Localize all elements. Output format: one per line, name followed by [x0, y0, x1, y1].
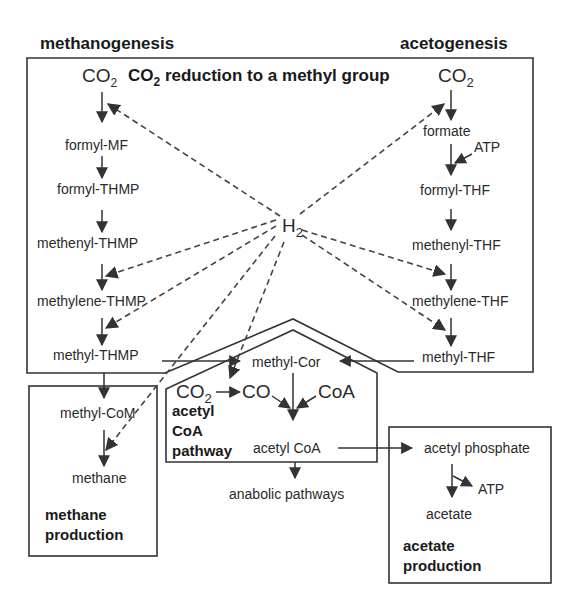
methane-production-label-1: methane — [45, 506, 107, 523]
co: CO — [242, 381, 271, 402]
methyl-com: methyl-CoM — [60, 405, 135, 421]
methyl-cor: methyl-Cor — [252, 354, 321, 370]
acetyl-phosphate: acetyl phosphate — [424, 440, 530, 456]
methylene-thf: methylene-THF — [412, 293, 508, 309]
methyl-thmp: methyl-THMP — [53, 347, 139, 363]
acetogenesis-heading: acetogenesis — [400, 34, 508, 53]
box-title: CO2 reduction to a methyl group — [128, 66, 390, 89]
h2-reductant: H2 — [282, 215, 303, 240]
coa: CoA — [318, 381, 355, 402]
formyl-mf: formyl-MF — [65, 137, 128, 153]
methenyl-thmp: methenyl-THMP — [37, 235, 138, 251]
pathway-diagram: methanogenesis acetogenesis CO2 CO2 redu… — [0, 0, 574, 591]
acetyl-pathway-label-1: acetyl — [172, 402, 215, 419]
methyl-thf: methyl-THF — [422, 349, 495, 365]
acetate: acetate — [426, 506, 472, 522]
methane: methane — [72, 470, 127, 486]
formate: formate — [423, 123, 471, 139]
methenyl-thf: methenyl-THF — [412, 237, 501, 253]
methanogenesis-heading: methanogenesis — [40, 34, 174, 53]
acetate-production-label-2: production — [403, 557, 481, 574]
formyl-thmp: formyl-THMP — [57, 181, 139, 197]
acetate-production-label-1: acetate — [403, 537, 455, 554]
methylene-thmp: methylene-THMP — [37, 293, 146, 309]
acetyl-coa: acetyl CoA — [253, 440, 321, 456]
acetogenesis-co2: CO2 — [438, 65, 474, 90]
atp-acetate: ATP — [478, 481, 504, 497]
methane-production-label-2: production — [45, 526, 123, 543]
atp-acetogenesis: ATP — [474, 139, 500, 155]
methanogenesis-co2: CO2 — [82, 65, 118, 90]
formyl-thf: formyl-THF — [420, 182, 490, 198]
anabolic-pathways: anabolic pathways — [229, 486, 344, 502]
acetyl-pathway-label-3: pathway — [172, 442, 233, 459]
acetyl-pathway-label-2: CoA — [172, 422, 203, 439]
